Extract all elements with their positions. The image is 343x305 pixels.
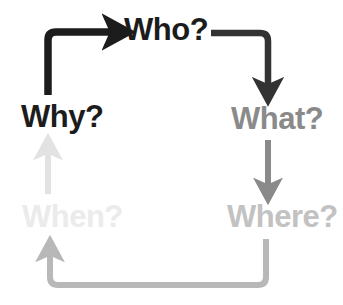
diagram-canvas: Why? Who? What? Where? When?	[0, 0, 343, 305]
arrow-where-to-when	[50, 239, 266, 285]
arrow-why-to-who	[48, 32, 112, 95]
node-where: Where?	[227, 201, 338, 232]
node-when: When?	[22, 201, 123, 232]
node-what: What?	[231, 103, 323, 134]
node-why: Why?	[21, 101, 103, 132]
arrow-who-to-what	[211, 33, 268, 86]
node-who: Who?	[124, 14, 208, 45]
